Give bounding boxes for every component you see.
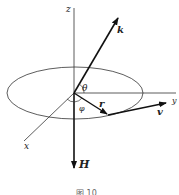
physics-diagram: z y x k r v H θ φ 图 10 [0,0,179,195]
theta-label: θ [82,83,88,93]
z-axis-label: z [65,4,71,14]
k-vector [74,18,118,93]
x-axis-label: x [24,141,29,151]
y-axis-label: y [171,96,177,105]
H-label: H [78,158,90,171]
figure-caption: 图 10 [76,189,97,195]
x-axis [24,93,74,141]
r-label: r [99,98,105,109]
v-label: v [157,106,163,117]
phi-label: φ [79,104,85,113]
k-label: k [117,24,124,35]
